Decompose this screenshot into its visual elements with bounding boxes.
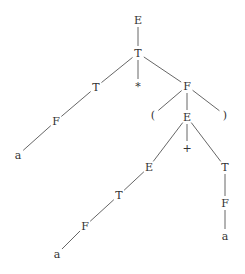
tree-node: F	[52, 116, 60, 127]
tree-node: T	[221, 162, 228, 173]
tree-edge	[144, 57, 181, 82]
tree-node: (	[151, 110, 155, 121]
tree-node: E	[183, 112, 191, 123]
tree-node: E	[145, 162, 153, 173]
tree-node: E	[134, 15, 142, 26]
tree-node: F	[183, 81, 191, 92]
tree-edge	[61, 92, 90, 117]
tree-edge	[124, 172, 144, 190]
tree-edge	[62, 231, 80, 249]
tree-node: a	[222, 231, 229, 242]
tree-node: F	[221, 198, 229, 209]
tree-node: *	[135, 81, 141, 92]
tree-node: +	[182, 143, 191, 154]
tree-edge	[158, 91, 181, 111]
tree-node: T	[134, 48, 141, 59]
tree-edge	[101, 57, 132, 82]
tree-edge	[191, 123, 221, 162]
tree-node: )	[223, 110, 227, 121]
tree-node: F	[81, 221, 89, 232]
tree-node: a	[15, 150, 22, 161]
tree-edge	[153, 123, 183, 162]
tree-edge	[23, 126, 51, 151]
tree-edges	[0, 0, 245, 274]
tree-node: T	[92, 82, 99, 93]
tree-node: T	[115, 190, 122, 201]
parse-tree-diagram: ETT*FFa(E)E+TTFFaa	[0, 0, 245, 274]
tree-node: a	[54, 249, 61, 260]
tree-edge	[90, 200, 114, 222]
tree-edge	[193, 90, 220, 111]
